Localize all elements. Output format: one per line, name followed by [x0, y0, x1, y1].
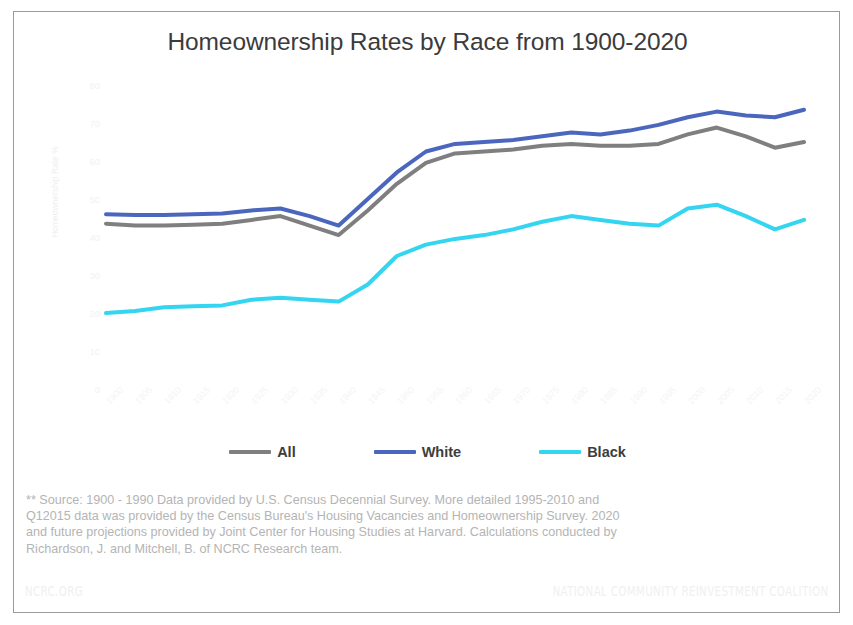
- footnote-line-4: Richardson, J. and Mitchell, B. of NCRC …: [26, 541, 832, 557]
- footnote-line-3: and future projections provided by Joint…: [26, 524, 832, 540]
- chart-legend: AllWhiteBlack: [14, 444, 841, 460]
- x-axis-ticks: 1900190519101915192019251930193519401945…: [34, 399, 824, 449]
- footnote-line-2: Q12015 data was provided by the Census B…: [26, 508, 832, 524]
- source-footnote: ** Source: 1900 - 1990 Data provided by …: [26, 492, 832, 557]
- slide-canvas: Homeownership Rates by Race from 1900-20…: [0, 0, 853, 625]
- series-lines: [34, 67, 824, 407]
- plot-area: Homeownership Rate % 01020304050607080 1…: [34, 67, 824, 407]
- line-swatch-black: [539, 450, 581, 454]
- series-line-black: [106, 205, 804, 313]
- legend-label: All: [277, 444, 296, 460]
- footnote-line-1: ** Source: 1900 - 1990 Data provided by …: [26, 492, 832, 508]
- legend-item-all[interactable]: All: [229, 444, 296, 460]
- legend-item-black[interactable]: Black: [539, 444, 626, 460]
- page-title: Homeownership Rates by Race from 1900-20…: [14, 28, 841, 56]
- footer-bar: NCRC.ORG NATIONAL COMMUNITY REINVESTMENT…: [15, 571, 838, 611]
- chart-frame: Homeownership Rates by Race from 1900-20…: [13, 11, 840, 613]
- line-swatch-all: [229, 450, 271, 454]
- footer-website: NCRC.ORG: [25, 583, 83, 599]
- legend-label: White: [422, 444, 461, 460]
- footer-organization: NATIONAL COMMUNITY REINVESTMENT COALITIO…: [552, 583, 828, 599]
- line-swatch-white: [374, 450, 416, 454]
- legend-label: Black: [587, 444, 626, 460]
- legend-item-white[interactable]: White: [374, 444, 461, 460]
